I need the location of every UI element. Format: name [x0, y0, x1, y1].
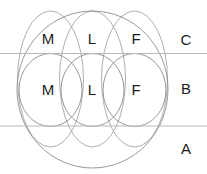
diagram-svg: M L F M L F C B A [0, 0, 207, 174]
band-label-c: C [181, 31, 192, 48]
band-b-label-f: F [131, 81, 140, 98]
band-c-label-f: F [131, 30, 140, 47]
band-b-label-l: L [88, 81, 96, 98]
band-c-label-m: M [42, 30, 55, 47]
band-label-b: B [181, 80, 191, 97]
band-label-a: A [181, 140, 191, 157]
diagram-canvas: M L F M L F C B A [0, 0, 207, 174]
band-b-label-m: M [42, 81, 55, 98]
band-c-label-l: L [88, 30, 96, 47]
